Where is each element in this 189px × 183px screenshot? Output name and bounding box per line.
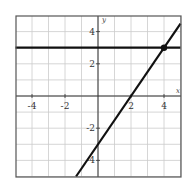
points: [161, 45, 167, 51]
x-tick-label: 4: [161, 101, 167, 111]
y-tick-label: 2: [89, 59, 95, 69]
x-axis-label: x: [176, 87, 180, 95]
y-axis-label: y: [101, 16, 107, 24]
x-tick-label: -4: [28, 101, 37, 111]
intersection-point: [161, 45, 167, 51]
coordinate-plane: -4-22442-2-4xy: [0, 0, 189, 183]
tick-labels: -4-22442-2-4xy: [28, 16, 180, 165]
axes: [16, 16, 181, 177]
x-tick-label: -2: [61, 101, 70, 111]
y-tick-label: -2: [86, 123, 95, 133]
y-tick-label: 4: [89, 27, 95, 37]
x-tick-label: 2: [128, 101, 134, 111]
